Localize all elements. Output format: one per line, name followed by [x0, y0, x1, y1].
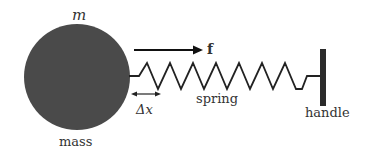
- handle-label: handle: [305, 105, 350, 120]
- mass-label: mass: [59, 134, 92, 149]
- force-arrow: [134, 46, 203, 55]
- handle-bar: [320, 49, 326, 106]
- displacement-arrow: [131, 92, 161, 97]
- force-label: f: [207, 41, 214, 57]
- spring: [129, 63, 321, 89]
- spring-label: spring: [196, 91, 238, 106]
- mass-spring-diagram: m mass f Δx spring handle: [0, 0, 367, 154]
- arrowhead-left-icon: [131, 92, 137, 97]
- displacement-label: Δx: [135, 102, 153, 117]
- arrowhead-right-icon: [155, 92, 161, 97]
- arrowhead-icon: [193, 46, 203, 55]
- mass-symbol-label: m: [72, 6, 86, 24]
- mass-circle: [24, 24, 130, 130]
